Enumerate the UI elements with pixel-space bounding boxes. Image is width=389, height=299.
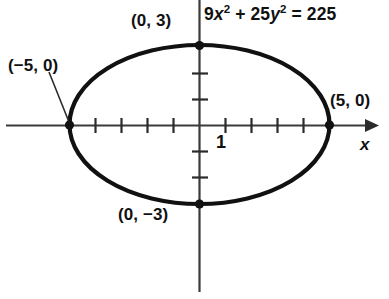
equation-coef-b: 25	[250, 4, 270, 24]
equation-label: 9x2 + 25y2 = 225	[204, 6, 336, 24]
x-axis-arrowhead	[365, 119, 379, 132]
left-vertex-leader-line	[49, 72, 69, 122]
vertex-point-right	[325, 120, 334, 129]
x-axis-label: x	[360, 136, 370, 153]
equation-var-x: x	[214, 4, 224, 24]
equation-equals: =	[292, 4, 302, 24]
vertex-point-bottom	[195, 199, 204, 208]
x-axis	[6, 119, 379, 132]
equation-coef-a: 9	[204, 4, 214, 24]
unit-scale-label: 1	[216, 133, 226, 151]
vertex-label-right: (5, 0)	[330, 92, 370, 109]
vertex-point-top	[195, 41, 204, 50]
ellipse-graph-figure	[0, 0, 389, 299]
vertex-label-top: (0, 3)	[131, 12, 171, 29]
vertex-label-left: (−5, 0)	[8, 57, 58, 74]
equation-plus: +	[235, 4, 245, 24]
equation-var-y: y	[270, 4, 280, 24]
equation-rhs: 225	[307, 4, 337, 24]
vertex-label-bottom: (0, −3)	[118, 206, 168, 223]
equation-exponent-x: 2	[224, 3, 231, 15]
equation-exponent-y: 2	[280, 3, 287, 15]
vertex-point-left	[65, 120, 74, 129]
